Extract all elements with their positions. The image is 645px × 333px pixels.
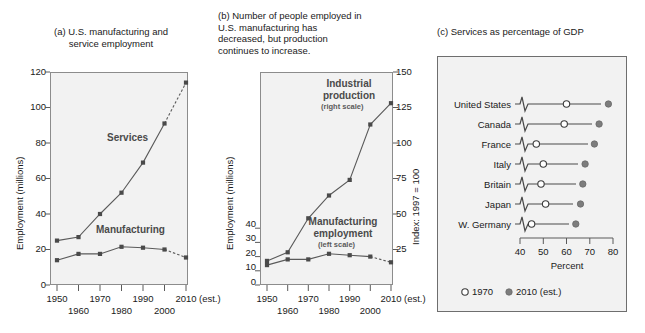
figure-services-employment-gdp: (a) U.S. manufacturing and service emplo… [0,0,645,333]
panel-a-y-ticks [45,72,50,285]
panel-c-plot-svg [425,0,645,333]
panel-a-xtick-2010: 2010 [171,293,201,304]
panel-c-row-w-germany [515,217,579,231]
panel-c-xtick-80: 80 [601,246,625,257]
panel-c-row-canada [515,117,602,131]
panel-c-legend-2010: 2010 (est.) [516,286,561,297]
panel-b-x-ticks [267,285,391,291]
panel-b-xtick-1990: 1990 [335,293,365,304]
panel-a-plot-svg [0,0,215,333]
panel-a-x-ticks [57,285,186,291]
panel-b-xtick-1970: 1970 [293,293,323,304]
panel-b-xtick-1950: 1950 [252,293,282,304]
panel-c-row-france [515,137,598,151]
panel-c-xtick-60: 60 [555,246,579,257]
panel-b-label-manufacturing-employment-scale: (left scale) [318,240,355,249]
panel-b-label-manufacturing-employment: Manufacturing employment [296,216,390,239]
panel-c-row-britain [515,177,586,191]
panel-b-y-ticks-right [393,72,398,250]
panel-c-xtick-40: 40 [508,246,532,257]
panel-b-xtick-2000: 2000 [355,305,385,316]
panel-a-series-services [55,81,188,243]
panel-b-label-industrial-production-scale: (right scale) [321,102,364,111]
panel-b-label-industrial-production: Industrial production [305,78,393,101]
panel-a-xtick-1960: 1960 [64,305,94,316]
panel-a-xtick-2000: 2000 [150,305,180,316]
panel-c-xtick-50: 50 [531,246,555,257]
panel-a-xtick-1950: 1950 [42,293,72,304]
panel-a-xtick-1970: 1970 [85,293,115,304]
panel-c-row-japan [515,197,584,211]
panel-c-x-axis-label: Percent [542,260,592,271]
panel-b-xtick-1960: 1960 [273,305,303,316]
panel-b-manufacturing-vs-production: (b) Number of people employed in U.S. ma… [210,0,425,333]
panel-a-xtick-1980: 1980 [107,305,137,316]
panel-c-xtick-70: 70 [578,246,602,257]
panel-c-legend-1970: 1970 [472,286,493,297]
panel-b-xtick-1980: 1980 [314,305,344,316]
panel-c-x-axis [520,238,613,244]
panel-a-manufacturing-service-employment: (a) U.S. manufacturing and service emplo… [0,0,215,333]
panel-c-row-italy [515,157,588,171]
panel-b-xtick-2010: 2010 [376,293,406,304]
panel-a-label-manufacturing: Manufacturing [96,224,165,236]
panel-c-services-percentage-gdp: (c) Services as percentage of GDP United… [425,0,645,333]
panel-a-series-manufacturing [55,245,188,263]
panel-a-xtick-1990: 1990 [128,293,158,304]
panel-b-plot-svg [210,0,425,333]
panel-a-label-services: Services [107,132,148,144]
panel-c-row-united-states [515,97,612,111]
panel-b-y-ticks-left [255,228,260,285]
